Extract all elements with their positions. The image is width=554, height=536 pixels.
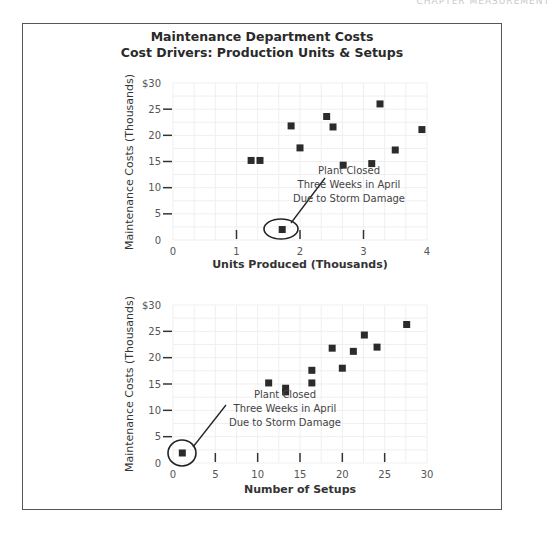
y-tick-label: 0 bbox=[155, 458, 161, 469]
y-tick-label: 5 bbox=[155, 208, 161, 219]
data-point bbox=[248, 157, 255, 164]
x-tick-label: 30 bbox=[421, 469, 434, 480]
x-tick-label: 15 bbox=[294, 469, 307, 480]
x-tick-label: 5 bbox=[212, 469, 218, 480]
scatter-plot-2: 0510152025$30051015202530Number of Setup… bbox=[123, 296, 433, 496]
annotation-text: Three Weeks in April bbox=[233, 403, 337, 414]
y-tick-label: 15 bbox=[148, 379, 161, 390]
data-point bbox=[329, 345, 336, 352]
y-axis-title: Maintenance Costs (Thousands) bbox=[123, 74, 136, 250]
scatter-plot-1: 0510152025$3001234Units Produced (Thousa… bbox=[123, 74, 430, 271]
data-point bbox=[339, 365, 346, 372]
x-axis-title: Units Produced (Thousands) bbox=[212, 258, 388, 271]
grid bbox=[173, 83, 427, 240]
y-tick-label: 5 bbox=[155, 431, 161, 442]
data-point bbox=[350, 348, 357, 355]
y-tick-label: 10 bbox=[148, 182, 161, 193]
x-tick-label: 20 bbox=[336, 469, 349, 480]
y-tick-label: 15 bbox=[148, 156, 161, 167]
data-point bbox=[265, 379, 272, 386]
data-point bbox=[392, 146, 399, 153]
y-tick-label: 25 bbox=[148, 326, 161, 337]
data-point bbox=[403, 321, 410, 328]
scatter-plots: 0510152025$3001234Units Produced (Thousa… bbox=[0, 0, 554, 536]
y-tick-label: 10 bbox=[148, 405, 161, 416]
x-tick-label: 2 bbox=[297, 246, 303, 257]
x-tick-label: 0 bbox=[170, 246, 176, 257]
data-point bbox=[377, 100, 384, 107]
annotation-text: Due to Storm Damage bbox=[229, 417, 341, 428]
data-point bbox=[418, 126, 425, 133]
data-point bbox=[308, 379, 315, 386]
annotation-text: Plant Closed bbox=[254, 389, 316, 400]
y-tick-label: $30 bbox=[142, 300, 161, 311]
x-tick-label: 1 bbox=[233, 246, 239, 257]
annotation-text: Due to Storm Damage bbox=[293, 193, 405, 204]
data-point bbox=[374, 344, 381, 351]
y-axis-title: Maintenance Costs (Thousands) bbox=[123, 296, 136, 472]
annotation-text: Plant Closed bbox=[318, 165, 380, 176]
grid bbox=[173, 305, 427, 463]
y-tick-label: 20 bbox=[148, 352, 161, 363]
data-point bbox=[308, 367, 315, 374]
y-tick-label: $30 bbox=[142, 78, 161, 89]
x-tick-label: 0 bbox=[170, 469, 176, 480]
x-tick-label: 4 bbox=[424, 246, 430, 257]
data-point bbox=[330, 123, 337, 130]
y-tick-label: 0 bbox=[155, 235, 161, 246]
data-point bbox=[256, 157, 263, 164]
y-tick-label: 20 bbox=[148, 130, 161, 141]
data-point bbox=[323, 113, 330, 120]
outlier-point bbox=[179, 449, 186, 456]
annotation-leader-line bbox=[193, 405, 226, 447]
outlier-point bbox=[279, 226, 286, 233]
annotation-text: Three Weeks in April bbox=[297, 179, 401, 190]
x-tick-label: 3 bbox=[360, 246, 366, 257]
data-point bbox=[297, 144, 304, 151]
x-axis-title: Number of Setups bbox=[244, 483, 357, 496]
data-point bbox=[361, 332, 368, 339]
x-tick-label: 25 bbox=[378, 469, 391, 480]
data-point bbox=[288, 122, 295, 129]
x-tick-label: 10 bbox=[251, 469, 264, 480]
y-tick-label: 25 bbox=[148, 104, 161, 115]
